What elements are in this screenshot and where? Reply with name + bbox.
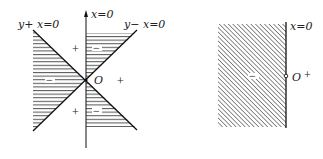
- sign-right: +: [117, 74, 124, 88]
- line1-label: y+ x=0: [17, 18, 59, 31]
- axis-arrow-icon: [84, 10, 88, 17]
- right-figure: x=0 O + −: [218, 20, 312, 128]
- sign-left-shaded: −: [46, 73, 53, 87]
- line2-label: y− x=0: [123, 18, 165, 31]
- origin-point: [84, 78, 87, 81]
- sign-right: +: [304, 68, 311, 82]
- axis-label: x=0: [290, 20, 312, 33]
- sign-shaded: −: [249, 69, 256, 83]
- sign-top: +: [72, 42, 79, 56]
- sign-top-shaded: −: [93, 41, 100, 55]
- diagram-canvas: x=0 y+ x=0 y− x=0 O + + + − − − x=0 O + …: [0, 0, 323, 159]
- sign-bottom-shaded: −: [93, 104, 100, 118]
- left-figure: x=0 y+ x=0 y− x=0 O + + + − − −: [17, 8, 165, 148]
- origin-point: [284, 74, 288, 78]
- origin-label: O: [94, 74, 103, 87]
- sign-bottom: +: [72, 105, 79, 119]
- origin-label: O: [292, 71, 301, 84]
- axis-label: x=0: [91, 8, 113, 21]
